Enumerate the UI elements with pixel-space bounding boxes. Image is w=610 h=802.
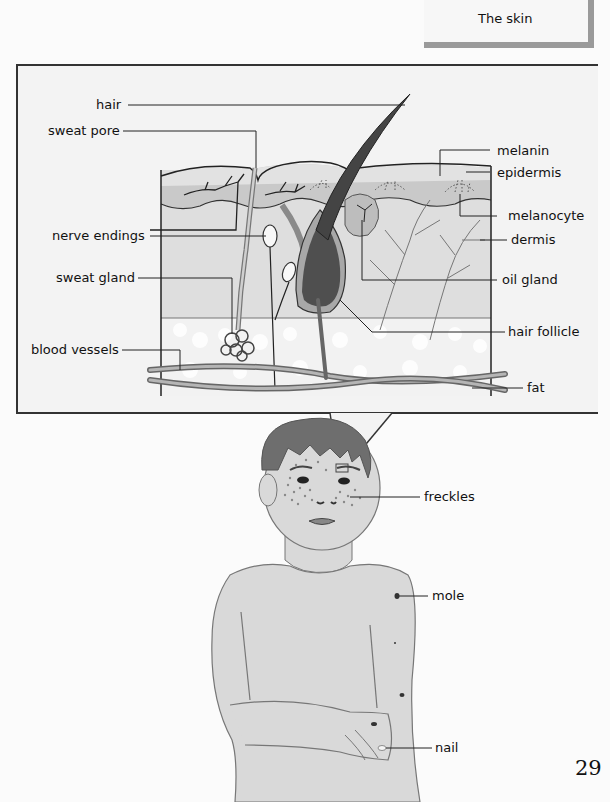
label-mole: mole xyxy=(432,588,464,603)
label-nail: nail xyxy=(435,740,458,755)
label-freckles: freckles xyxy=(424,489,475,504)
boy-figure-illustration xyxy=(0,0,610,802)
page-number: 29 xyxy=(575,756,602,780)
